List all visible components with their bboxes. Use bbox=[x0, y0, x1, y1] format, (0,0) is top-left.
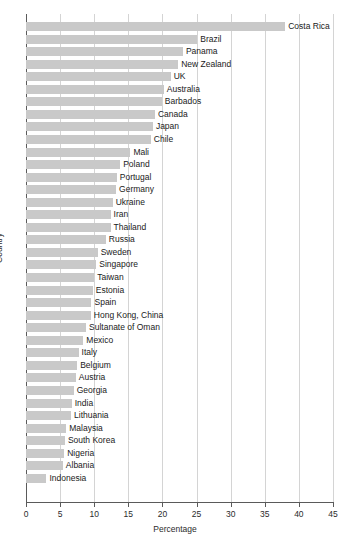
bar-row[interactable]: Chile bbox=[26, 135, 151, 144]
bar[interactable] bbox=[26, 336, 83, 345]
bar[interactable] bbox=[26, 173, 117, 182]
bar-row[interactable]: Spain bbox=[26, 298, 91, 307]
bar-row[interactable]: Sweden bbox=[26, 248, 98, 257]
bar[interactable] bbox=[26, 135, 151, 144]
bar-row[interactable]: Thailand bbox=[26, 223, 111, 232]
bar-category-label: Japan bbox=[153, 121, 179, 131]
bar[interactable] bbox=[26, 474, 46, 483]
bar[interactable] bbox=[26, 399, 72, 408]
bar[interactable] bbox=[26, 386, 74, 395]
gridline bbox=[299, 14, 300, 502]
bar-row[interactable]: Canada bbox=[26, 110, 155, 119]
bar[interactable] bbox=[26, 60, 178, 69]
bar-category-label: Barbados bbox=[162, 96, 201, 106]
bar[interactable] bbox=[26, 348, 79, 357]
bar-row[interactable]: Nigeria bbox=[26, 449, 64, 458]
bar[interactable] bbox=[26, 235, 106, 244]
bar[interactable] bbox=[26, 449, 64, 458]
bar-row[interactable]: Austria bbox=[26, 373, 76, 382]
bar[interactable] bbox=[26, 110, 155, 119]
bar-row[interactable]: Australia bbox=[26, 85, 164, 94]
bar-row[interactable]: Sultanate of Oman bbox=[26, 323, 86, 332]
bar-row[interactable]: Ukraine bbox=[26, 198, 113, 207]
bar[interactable] bbox=[26, 298, 91, 307]
bar[interactable] bbox=[26, 47, 183, 56]
x-tick-mark bbox=[231, 503, 232, 507]
x-tick-label: 20 bbox=[158, 509, 167, 519]
bar-row[interactable]: New Zealand bbox=[26, 60, 178, 69]
bar-row[interactable]: UK bbox=[26, 72, 171, 81]
bar-row[interactable]: Portugal bbox=[26, 173, 117, 182]
bar-row[interactable]: Albania bbox=[26, 461, 63, 470]
bar[interactable] bbox=[26, 323, 86, 332]
bar-row[interactable]: Panama bbox=[26, 47, 183, 56]
bar[interactable] bbox=[26, 210, 111, 219]
bar-category-label: Brazil bbox=[197, 34, 221, 44]
bar[interactable] bbox=[26, 361, 77, 370]
bar-category-label: South Korea bbox=[65, 435, 115, 445]
bar[interactable] bbox=[26, 122, 153, 131]
x-tick-label: 30 bbox=[226, 509, 235, 519]
bar[interactable] bbox=[26, 411, 71, 420]
bar-row[interactable]: Estonia bbox=[26, 286, 93, 295]
bar-row[interactable]: Indonesia bbox=[26, 474, 46, 483]
bar-row[interactable]: Japan bbox=[26, 122, 153, 131]
bar-row[interactable]: Iran bbox=[26, 210, 111, 219]
x-tick-label: 5 bbox=[58, 509, 63, 519]
x-tick-label: 40 bbox=[294, 509, 303, 519]
bar[interactable] bbox=[26, 35, 197, 44]
bar-row[interactable]: Belgium bbox=[26, 361, 77, 370]
x-tick-mark bbox=[162, 503, 163, 507]
bar[interactable] bbox=[26, 424, 66, 433]
bar[interactable] bbox=[26, 198, 113, 207]
bar-row[interactable]: Brazil bbox=[26, 35, 197, 44]
bar-row[interactable]: Singapore bbox=[26, 260, 96, 269]
bar[interactable] bbox=[26, 160, 120, 169]
bar[interactable] bbox=[26, 311, 91, 320]
bar-category-label: Ukraine bbox=[113, 197, 145, 207]
bar[interactable] bbox=[26, 97, 162, 106]
bar[interactable] bbox=[26, 436, 65, 445]
bar[interactable] bbox=[26, 22, 285, 31]
x-axis-line bbox=[26, 502, 334, 503]
bar-row[interactable]: Lithuania bbox=[26, 411, 71, 420]
bar[interactable] bbox=[26, 223, 111, 232]
y-axis-title: Country bbox=[0, 233, 4, 263]
bar-row[interactable]: Barbados bbox=[26, 97, 162, 106]
bar[interactable] bbox=[26, 286, 93, 295]
bar-row[interactable]: Georgia bbox=[26, 386, 74, 395]
x-tick-mark bbox=[26, 503, 27, 507]
bar-category-label: Malaysia bbox=[66, 423, 103, 433]
x-tick-label: 15 bbox=[124, 509, 133, 519]
x-tick-label: 10 bbox=[89, 509, 98, 519]
bar[interactable] bbox=[26, 248, 98, 257]
bar-row[interactable]: Russia bbox=[26, 235, 106, 244]
bar-category-label: Albania bbox=[63, 460, 94, 470]
bar[interactable] bbox=[26, 148, 130, 157]
bar-row[interactable]: Mali bbox=[26, 148, 130, 157]
bar[interactable] bbox=[26, 85, 164, 94]
bar-category-label: Sweden bbox=[98, 247, 132, 257]
bar[interactable] bbox=[26, 185, 116, 194]
x-tick-label: 0 bbox=[24, 509, 29, 519]
bar-row[interactable]: Malaysia bbox=[26, 424, 66, 433]
bar-row[interactable]: South Korea bbox=[26, 436, 65, 445]
bar[interactable] bbox=[26, 260, 96, 269]
bar-row[interactable]: Taiwan bbox=[26, 273, 94, 282]
bar-row[interactable]: Mexico bbox=[26, 336, 83, 345]
x-tick-label: 35 bbox=[260, 509, 269, 519]
bar-row[interactable]: India bbox=[26, 399, 72, 408]
x-tick-mark bbox=[333, 503, 334, 507]
bar-row[interactable]: Italy bbox=[26, 348, 79, 357]
bar[interactable] bbox=[26, 373, 76, 382]
bar-row[interactable]: Germany bbox=[26, 185, 116, 194]
bar-category-label: Sultanate of Oman bbox=[86, 322, 160, 332]
bar[interactable] bbox=[26, 461, 63, 470]
bar[interactable] bbox=[26, 72, 171, 81]
bar[interactable] bbox=[26, 273, 94, 282]
bar-row[interactable]: Hong Kong, China bbox=[26, 311, 91, 320]
bar-row[interactable]: Costa Rica bbox=[26, 22, 285, 31]
bar-category-label: India bbox=[72, 398, 93, 408]
bar-category-label: Lithuania bbox=[71, 410, 109, 420]
bar-row[interactable]: Poland bbox=[26, 160, 120, 169]
